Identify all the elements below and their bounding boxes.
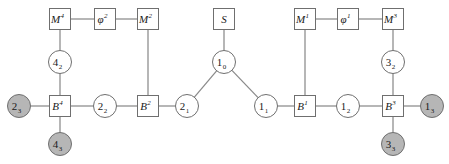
graph-node-10[interactable]: 10 — [213, 51, 236, 74]
graph-node-33[interactable]: 33 — [382, 133, 405, 156]
graph-node-21[interactable]: 21 — [176, 95, 199, 118]
graph-node-B1[interactable]: B1 — [295, 96, 316, 117]
graph-edge — [232, 70, 258, 97]
graph-node-42[interactable]: 42 — [49, 51, 72, 74]
diagram-canvas: M4φ2M2SM1φ1M342103223B422B22111B112B3134… — [0, 0, 449, 164]
edges-layer — [31, 19, 421, 133]
graph-node-phi1[interactable]: φ1 — [338, 9, 359, 30]
graph-node-12[interactable]: 12 — [337, 95, 360, 118]
graph-node-B3[interactable]: B3 — [383, 96, 404, 117]
graph-node-B4[interactable]: B4 — [50, 96, 71, 117]
graph-node-M1[interactable]: M1 — [295, 9, 316, 30]
graph-node-13[interactable]: 13 — [421, 95, 444, 118]
graph-node-32[interactable]: 32 — [382, 51, 405, 74]
graph-node-M4[interactable]: M4 — [50, 9, 71, 30]
graph-node-phi2[interactable]: φ2 — [95, 9, 116, 30]
graph-node-43[interactable]: 43 — [49, 133, 72, 156]
graph-node-S[interactable]: S — [214, 9, 235, 30]
graph-node-M3[interactable]: M3 — [383, 9, 404, 30]
nodes-layer: M4φ2M2SM1φ1M342103223B422B22111B112B3134… — [8, 9, 444, 156]
node-label-S: S — [221, 12, 227, 24]
graph-node-23[interactable]: 23 — [8, 95, 31, 118]
graph-node-22[interactable]: 22 — [94, 95, 117, 118]
graph-node-B2[interactable]: B2 — [138, 96, 159, 117]
graph-node-M2[interactable]: M2 — [138, 9, 159, 30]
graph-svg: M4φ2M2SM1φ1M342103223B422B22111B112B3134… — [0, 0, 449, 164]
graph-node-11[interactable]: 11 — [255, 95, 278, 118]
graph-edge — [194, 71, 216, 97]
